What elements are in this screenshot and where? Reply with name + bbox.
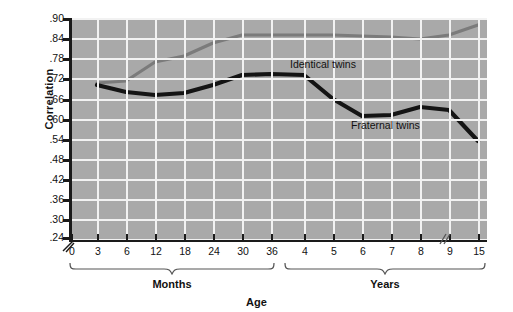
y-tick bbox=[63, 219, 72, 222]
y-tick bbox=[63, 159, 72, 162]
y-tick bbox=[63, 38, 72, 41]
gridline-v bbox=[97, 18, 99, 240]
gridline-v bbox=[333, 18, 335, 240]
group-label-months: Months bbox=[68, 278, 276, 290]
x-axis-title: Age bbox=[0, 296, 513, 308]
gridline-h bbox=[72, 219, 487, 221]
x-tick-label: 3 bbox=[86, 245, 110, 257]
y-tick-label: .30 bbox=[34, 213, 64, 225]
series-label-fraternal: Fraternal twins bbox=[351, 119, 420, 131]
x-tick-label: 0 bbox=[60, 245, 84, 257]
gridline-v bbox=[271, 18, 273, 240]
gridline-h bbox=[72, 139, 487, 141]
x-tick bbox=[478, 234, 480, 241]
gridline-v bbox=[126, 18, 128, 240]
y-tick-label: .42 bbox=[34, 173, 64, 185]
y-tick-label: .72 bbox=[34, 72, 64, 84]
x-tick-label: 18 bbox=[173, 245, 197, 257]
gridline-v bbox=[449, 18, 451, 240]
gridline-h bbox=[72, 58, 487, 60]
x-tick-label: 6 bbox=[351, 245, 375, 257]
gridline-v bbox=[478, 18, 480, 240]
x-tick bbox=[271, 234, 273, 241]
y-tick-label: .90 bbox=[34, 12, 64, 24]
chart-figure: Correlation bbox=[0, 0, 513, 312]
x-tick bbox=[242, 234, 244, 241]
x-tick-label: 9 bbox=[438, 245, 462, 257]
plot-area: Identical twins Fraternal twins bbox=[72, 18, 487, 240]
y-tick bbox=[63, 179, 72, 182]
y-tick-label: .48 bbox=[34, 153, 64, 165]
x-tick bbox=[126, 234, 128, 241]
y-tick bbox=[63, 58, 72, 61]
gridline-h bbox=[72, 199, 487, 201]
y-tick-label: .60 bbox=[34, 113, 64, 125]
x-tick-label: 15 bbox=[467, 245, 491, 257]
gridline-v bbox=[242, 18, 244, 240]
y-tick-label: .36 bbox=[34, 193, 64, 205]
x-tick bbox=[304, 234, 306, 241]
x-tick bbox=[362, 234, 364, 241]
brace-years bbox=[283, 262, 487, 275]
gridline-h bbox=[72, 99, 487, 101]
gridline-h bbox=[72, 18, 487, 20]
gridlines bbox=[72, 18, 487, 240]
gridline-h bbox=[72, 179, 487, 181]
x-tick bbox=[97, 234, 99, 241]
x-tick bbox=[391, 234, 393, 241]
x-tick-label: 24 bbox=[202, 245, 226, 257]
gridline-h bbox=[72, 119, 487, 121]
x-tick bbox=[71, 234, 73, 241]
gridline-h bbox=[72, 78, 487, 80]
group-label-years: Years bbox=[283, 278, 487, 290]
y-tick-label: .66 bbox=[34, 93, 64, 105]
x-tick-label: 8 bbox=[409, 245, 433, 257]
x-tick bbox=[213, 234, 215, 241]
series-label-identical: Identical twins bbox=[290, 58, 356, 70]
x-tick bbox=[420, 234, 422, 241]
y-tick bbox=[63, 199, 72, 202]
gridline-v bbox=[184, 18, 186, 240]
x-tick-label: 12 bbox=[144, 245, 168, 257]
gridline-v bbox=[213, 18, 215, 240]
x-tick bbox=[155, 234, 157, 241]
y-tick bbox=[63, 99, 72, 102]
y-tick-labels: .90 .84 .78 .72 .66 .60 .54 .48 .42 .36 … bbox=[28, 0, 64, 312]
gridline-v bbox=[304, 18, 306, 240]
brace-months bbox=[68, 262, 276, 275]
y-tick-label: .24 bbox=[34, 231, 64, 243]
x-tick-label: 7 bbox=[380, 245, 404, 257]
y-tick-label: .84 bbox=[34, 32, 64, 44]
gridline-h bbox=[72, 38, 487, 40]
gridline-v bbox=[420, 18, 422, 240]
y-tick bbox=[63, 78, 72, 81]
x-axis-break-icon bbox=[437, 232, 453, 246]
gridline-v bbox=[155, 18, 157, 240]
x-tick bbox=[184, 234, 186, 241]
x-tick-label: 36 bbox=[260, 245, 284, 257]
x-axis-line bbox=[69, 240, 487, 242]
y-tick bbox=[63, 18, 72, 21]
x-tick-label: 30 bbox=[231, 245, 255, 257]
y-axis-line bbox=[69, 18, 72, 240]
y-tick bbox=[63, 139, 72, 142]
y-tick-label: .78 bbox=[34, 52, 64, 64]
y-tick-label: .54 bbox=[34, 133, 64, 145]
x-tick-label: 4 bbox=[293, 245, 317, 257]
x-tick bbox=[333, 234, 335, 241]
y-tick bbox=[63, 119, 72, 122]
x-tick-label: 6 bbox=[115, 245, 139, 257]
x-tick-label: 5 bbox=[322, 245, 346, 257]
gridline-h bbox=[72, 159, 487, 161]
